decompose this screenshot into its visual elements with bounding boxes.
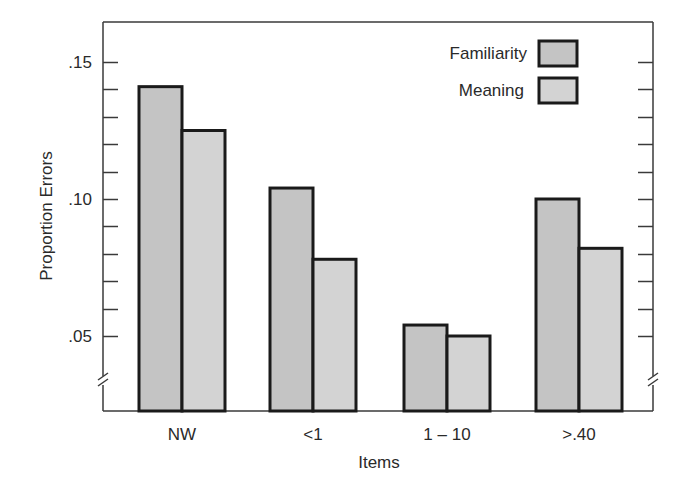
x-axis-labels: NW<11 – 10>.40 bbox=[168, 425, 596, 444]
bar-chart: .05.10.15 NW<11 – 10>.40 Proportion Erro… bbox=[0, 0, 690, 488]
y-tick-label: .15 bbox=[68, 53, 92, 72]
x-tick-label: 1 – 10 bbox=[423, 425, 470, 444]
x-axis-title: Items bbox=[358, 453, 400, 472]
axis-break-right bbox=[648, 379, 658, 386]
y-tick-label: .10 bbox=[68, 190, 92, 209]
bars bbox=[139, 87, 622, 411]
bar-familiarity-3 bbox=[536, 199, 579, 411]
bar-meaning-1 bbox=[313, 259, 356, 411]
bar-meaning-2 bbox=[447, 336, 490, 411]
legend-label-familiarity: Familiarity bbox=[450, 44, 528, 63]
x-tick-label: >.40 bbox=[562, 425, 596, 444]
y-tick-label: .05 bbox=[68, 327, 92, 346]
y-axis-title: Proportion Errors bbox=[37, 151, 56, 280]
legend-swatch-familiarity bbox=[539, 41, 577, 66]
x-tick-label: NW bbox=[168, 425, 196, 444]
x-tick-label: <1 bbox=[303, 425, 322, 444]
legend-label-meaning: Meaning bbox=[459, 81, 524, 100]
bar-familiarity-1 bbox=[270, 188, 313, 411]
bar-familiarity-2 bbox=[404, 325, 447, 411]
legend: Familiarity Meaning bbox=[450, 41, 577, 103]
axis-break-left bbox=[98, 379, 108, 386]
bar-familiarity-0 bbox=[139, 87, 182, 411]
bar-meaning-0 bbox=[182, 131, 225, 412]
bar-meaning-3 bbox=[579, 248, 622, 411]
legend-swatch-meaning bbox=[539, 78, 577, 103]
